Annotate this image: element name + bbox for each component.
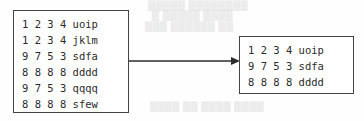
background-artifact-line: █ █████ ████ <box>152 11 233 21</box>
source-row: 9 7 5 3 qqqq <box>22 80 128 96</box>
source-row: 8 8 8 8 sfew <box>22 96 128 112</box>
background-artifact-line: ████ ██ ████ ████ <box>150 102 264 112</box>
background-artifact-line: █████ ████████ <box>148 1 248 11</box>
source-row: 1 2 3 4 jklm <box>22 32 128 48</box>
source-row: 9 7 5 3 sdfa <box>22 48 128 64</box>
source-record-box: 1 2 3 4 uoip 1 2 3 4 jklm 9 7 5 3 sdfa 8… <box>13 10 129 113</box>
source-row: 8 8 8 8 dddd <box>22 64 128 80</box>
result-row: 9 7 5 3 sdfa <box>248 58 353 74</box>
background-artifact-line: ███ ██████ ██ <box>145 22 233 32</box>
source-row: 1 2 3 4 uoip <box>22 16 128 32</box>
result-row: 1 2 3 4 uoip <box>248 42 353 58</box>
diagram-canvas: █████ ████████ █ █████ ████ ███ ██████ █… <box>0 0 364 121</box>
result-record-box: 1 2 3 4 uoip 9 7 5 3 sdfa 8 8 8 8 dddd <box>239 36 354 94</box>
flow-arrow-icon <box>128 54 240 68</box>
result-row: 8 8 8 8 dddd <box>248 74 353 90</box>
